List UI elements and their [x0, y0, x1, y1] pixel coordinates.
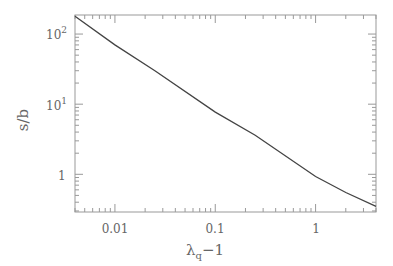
axis-ticks [75, 15, 376, 212]
chart: 102 101 1 0.01 0.1 1 λq−1 s/b [0, 0, 393, 266]
data-line [75, 16, 376, 206]
y-axis-label: s/b [14, 109, 32, 131]
y-tick-label-10: 101 [46, 96, 67, 113]
x-tick-label-1: 1 [312, 222, 320, 236]
y-tick-label-100: 102 [46, 25, 67, 42]
x-axis-label: λq−1 [186, 241, 224, 261]
y-tick-label-1: 1 [58, 169, 66, 183]
x-tick-label-0.1: 0.1 [205, 222, 224, 236]
x-tick-label-0.01: 0.01 [102, 222, 129, 236]
plot-frame [75, 15, 376, 212]
